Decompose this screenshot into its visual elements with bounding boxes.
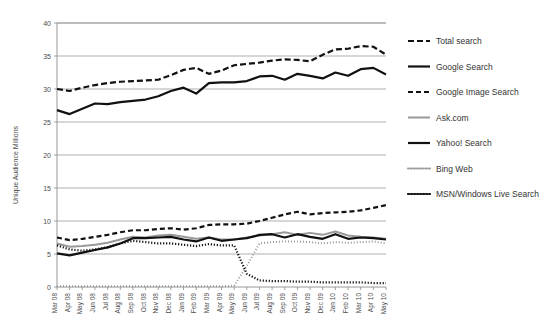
x-tick-label: Mar 09 [203, 293, 210, 314]
series-line-total-search [57, 46, 386, 91]
x-tick-label: May 09 [228, 293, 236, 315]
x-tick-label: Feb 10 [342, 293, 349, 314]
x-tick-label: Mar 10 [355, 293, 362, 314]
x-tick-label: May 10 [380, 293, 388, 315]
series-line-yahoo-search [57, 234, 386, 255]
x-tick-label: Jan 09 [178, 293, 185, 313]
y-tick-label: 0 [47, 284, 51, 291]
y-tick-label: 25 [43, 119, 51, 126]
y-axis-ticks: 0510152025303540 [43, 20, 57, 291]
x-tick-label: Apr 10 [367, 293, 375, 313]
legend-label-6: Bing Web [436, 164, 473, 174]
y-tick-label: 15 [43, 185, 51, 192]
x-tick-label: Sep 08 [127, 293, 135, 314]
y-tick-label: 40 [43, 20, 51, 27]
x-tick-label: Aug 09 [266, 293, 274, 314]
y-tick-label: 35 [43, 53, 51, 60]
x-tick-label: Dec 08 [165, 293, 172, 314]
x-tick-label: Oct 08 [140, 293, 147, 313]
x-tick-label: Jul 08 [102, 293, 109, 311]
x-axis-ticks: Mar 08Apr 08May 08Jun 08Jul 08Aug 08Sep … [51, 287, 388, 314]
x-tick-label: Apr 09 [216, 293, 224, 313]
x-tick-label: Dec 09 [317, 293, 324, 314]
legend-label-3: Google Image Search [436, 87, 519, 97]
x-tick-label: May 08 [76, 293, 84, 315]
x-tick-label: Jun 09 [241, 293, 248, 313]
series-lines [57, 46, 386, 286]
x-tick-label: Oct 09 [291, 293, 298, 313]
x-tick-label: Sep 09 [279, 293, 287, 314]
legend-label-5: Yahoo! Search [436, 138, 492, 148]
x-tick-label: Jun 08 [89, 293, 96, 313]
chart-legend: Total searchGoogle SearchGoogle Image Se… [408, 36, 539, 199]
chart-container: 0510152025303540 Mar 08Apr 08May 08Jun 0… [0, 0, 551, 333]
x-tick-label: Jan 10 [329, 293, 336, 313]
series-line-google-search [57, 68, 386, 114]
x-tick-label: Apr 08 [64, 293, 72, 313]
y-axis-title: Unique Audience Millions [12, 125, 20, 204]
x-tick-label: Mar 08 [51, 293, 58, 314]
legend-label-7: MSN/Windows Live Search [436, 189, 539, 199]
x-tick-label: Nov 09 [304, 293, 311, 314]
x-tick-label: Aug 08 [114, 293, 122, 314]
gridlines [57, 23, 386, 254]
y-tick-label: 10 [43, 218, 51, 225]
x-tick-label: Nov 08 [152, 293, 159, 314]
x-tick-label: Feb 09 [190, 293, 197, 314]
legend-label-1: Total search [436, 36, 482, 46]
y-tick-label: 5 [47, 251, 51, 258]
y-tick-label: 30 [43, 86, 51, 93]
line-chart: 0510152025303540 Mar 08Apr 08May 08Jun 0… [0, 0, 551, 333]
legend-label-2: Google Search [436, 62, 493, 72]
legend-label-4: Ask.com [436, 113, 469, 123]
y-tick-label: 20 [43, 152, 51, 159]
x-tick-label: Jul 09 [253, 293, 260, 311]
